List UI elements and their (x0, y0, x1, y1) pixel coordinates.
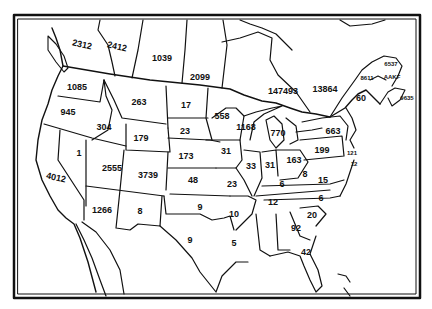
region-label-kansas: 48 (188, 176, 198, 185)
region-label-idaho: 304 (96, 123, 111, 132)
region-label-new-jersey: 121 (347, 150, 357, 156)
region-label-manitoba: 2099 (190, 73, 210, 82)
region-label-nova-scotia-north: AAKF (384, 74, 401, 80)
region-label-delaware-maryland: 12 (351, 161, 358, 167)
region-label-iowa: 31 (221, 147, 231, 156)
region-label-arkansas: 10 (229, 210, 239, 219)
region-label-nebraska: 173 (178, 152, 193, 161)
region-label-indiana: 31 (265, 161, 275, 170)
region-label-ohio: 163 (286, 156, 301, 165)
region-label-kentucky: 6 (279, 180, 284, 189)
region-label-washington: 1085 (67, 83, 87, 92)
region-label-oklahoma: 9 (197, 203, 202, 212)
region-label-minnesota: 558 (214, 112, 229, 121)
region-label-tennessee: 12 (268, 198, 278, 207)
region-label-ontario: 147493 (268, 87, 298, 96)
region-label-illinois: 33 (246, 162, 256, 171)
region-label-quebec: 13864 (312, 85, 337, 94)
region-label-nova-scotia: 9635 (400, 95, 413, 101)
region-label-west-virginia: 8 (302, 170, 307, 179)
region-label-pei: 6537 (384, 61, 397, 67)
region-label-saskatchewan: 1039 (152, 54, 172, 63)
region-label-new-mexico: 8 (137, 207, 142, 216)
region-label-florida: 42 (301, 248, 311, 257)
map-container: 23122412103920991474931386486116537AAKF9… (0, 0, 432, 309)
region-label-pennsylvania: 199 (314, 146, 329, 155)
region-label-missouri: 23 (227, 180, 237, 189)
region-label-new-york: 663 (325, 127, 340, 136)
map-frame (14, 15, 420, 298)
region-label-georgia: 92 (291, 224, 301, 233)
north-america-outline-map (0, 0, 432, 309)
region-label-michigan: 770 (270, 129, 285, 138)
region-label-virginia: 15 (318, 176, 328, 185)
region-label-montana: 263 (131, 98, 146, 107)
region-label-louisiana: 5 (231, 239, 236, 248)
region-label-north-dakota: 17 (181, 101, 191, 110)
region-label-south-dakota: 23 (180, 127, 190, 136)
region-label-maine: 60 (356, 94, 366, 103)
region-label-arizona: 1266 (92, 206, 112, 215)
region-label-oregon: 945 (60, 108, 75, 117)
region-label-wyoming: 179 (133, 134, 148, 143)
region-label-south-carolina: 20 (307, 211, 317, 220)
region-label-texas: 9 (187, 236, 192, 245)
region-label-north-carolina: 6 (318, 194, 323, 203)
region-label-colorado: 3739 (138, 171, 158, 180)
region-label-wisconsin: 1168 (236, 123, 256, 132)
region-label-new-brunswick: 8611 (360, 75, 373, 81)
region-label-utah: 2555 (102, 164, 122, 173)
region-label-nevada: 1 (76, 149, 81, 158)
